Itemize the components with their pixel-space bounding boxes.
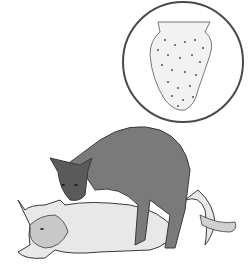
light-cat <box>18 190 236 258</box>
illustration-svg <box>0 0 250 277</box>
inset-magnification-circle <box>123 2 243 122</box>
illustration <box>0 0 250 277</box>
